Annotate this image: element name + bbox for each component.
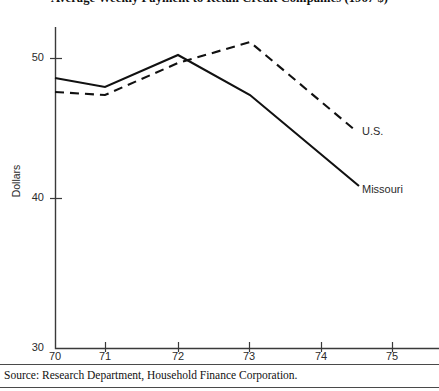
y-axis-title: Dollars: [10, 151, 22, 211]
series-label-us: U.S.: [362, 125, 383, 137]
source-divider-bottom: [0, 387, 439, 388]
source-divider-top: [0, 364, 439, 365]
chart-figure: Average Weekly Payment to Retail Credit …: [0, 0, 439, 391]
xtick-label-72: 72: [165, 350, 191, 362]
series-line-missouri: [55, 55, 359, 186]
xtick-label-70: 70: [42, 350, 68, 362]
ytick-label-50: 50: [18, 51, 44, 63]
plot-canvas: [0, 0, 439, 362]
xtick-label-74: 74: [308, 350, 334, 362]
xtick-label-71: 71: [92, 350, 118, 362]
source-note: Source: Research Department, Household F…: [4, 369, 298, 381]
xtick-label-73: 73: [236, 350, 262, 362]
series-label-missouri: Missouri: [362, 183, 403, 195]
xtick-label-75: 75: [379, 350, 405, 362]
plot-area: 50 40 30 70 71 72 73 74 75 Dollars U.S. …: [0, 0, 439, 362]
ytick-label-30: 30: [18, 341, 44, 353]
